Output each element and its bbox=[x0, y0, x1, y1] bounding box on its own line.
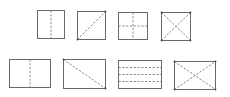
corner-dot bbox=[77, 39, 79, 41]
fold-line bbox=[64, 60, 106, 89]
corner-dot bbox=[105, 11, 107, 13]
corner-dot bbox=[105, 88, 107, 90]
shapes-layer bbox=[10, 11, 217, 91]
folding-diagram bbox=[0, 0, 230, 97]
corner-dot bbox=[215, 89, 217, 91]
rect-vertical-fold bbox=[10, 60, 51, 88]
fold-line bbox=[78, 12, 106, 40]
corner-dot bbox=[174, 61, 176, 63]
paper-outline bbox=[119, 61, 162, 89]
square-diagonal-fold bbox=[77, 11, 107, 41]
corner-dot bbox=[174, 89, 176, 91]
rect-three-horizontal-folds bbox=[119, 61, 162, 89]
corner-dot bbox=[190, 12, 192, 14]
corner-dot bbox=[190, 40, 192, 42]
corner-dot bbox=[161, 12, 163, 14]
corner-dot bbox=[215, 61, 217, 63]
square-double-diagonal-fold bbox=[161, 12, 192, 42]
rect-diagonal-fold bbox=[63, 59, 107, 90]
square-cross-fold bbox=[119, 13, 148, 40]
square-vertical-fold bbox=[38, 11, 65, 39]
rect-double-diagonal-fold bbox=[174, 61, 217, 91]
corner-dot bbox=[161, 40, 163, 42]
corner-dot bbox=[63, 59, 65, 61]
